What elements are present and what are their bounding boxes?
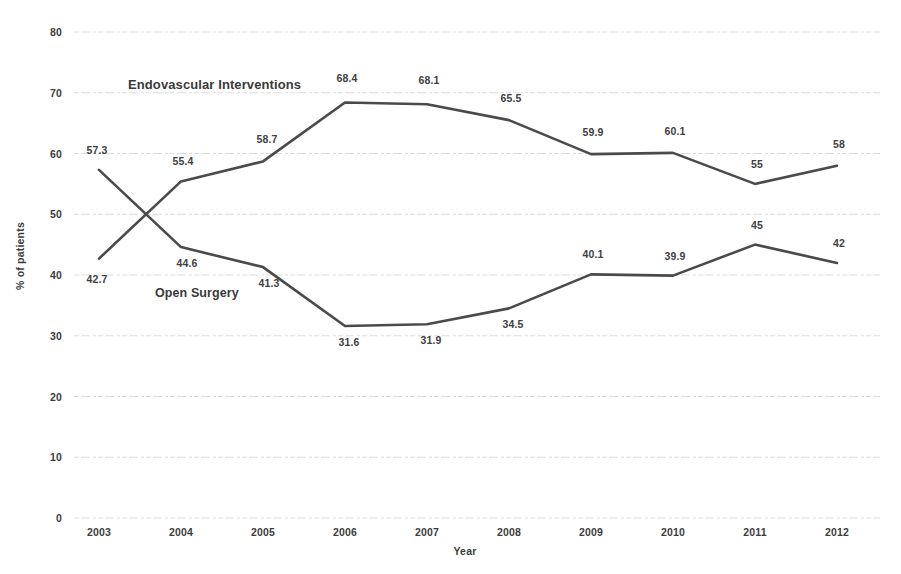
x-axis-tick-label: 2012 [802, 527, 872, 538]
gridlines [74, 32, 880, 518]
data-label-endovascular-interventions-2006: 68.4 [325, 73, 369, 84]
y-axis-tick-label: 60 [16, 149, 62, 160]
data-label-endovascular-interventions-2003: 42.7 [75, 274, 119, 285]
series-label-endovascular-interventions: Endovascular Interventions [128, 78, 301, 91]
data-label-open-surgery-2004: 44.6 [165, 258, 209, 269]
data-label-open-surgery-2008: 34.5 [491, 319, 535, 330]
data-label-endovascular-interventions-2007: 68.1 [407, 75, 451, 86]
data-label-open-surgery-2012: 42 [817, 238, 861, 249]
y-axis-tick-label: 70 [16, 88, 62, 99]
data-label-open-surgery-2006: 31.6 [327, 337, 371, 348]
x-axis-tick-label: 2006 [310, 527, 380, 538]
x-axis-tick-label: 2007 [392, 527, 462, 538]
data-label-open-surgery-2005: 41.3 [247, 278, 291, 289]
series-line-open-surgery [99, 170, 837, 326]
y-axis-tick-label: 10 [16, 452, 62, 463]
x-axis-tick-label: 2005 [228, 527, 298, 538]
x-axis-tick-label: 2009 [556, 527, 626, 538]
x-axis-tick-label: 2010 [638, 527, 708, 538]
data-label-endovascular-interventions-2008: 65.5 [489, 93, 533, 104]
x-axis-tick-label: 2003 [64, 527, 134, 538]
data-label-open-surgery-2011: 45 [735, 220, 779, 231]
x-axis-title: Year [420, 545, 510, 557]
data-label-endovascular-interventions-2012: 58 [817, 139, 861, 150]
data-label-endovascular-interventions-2009: 59.9 [571, 127, 615, 138]
y-axis-tick-label: 30 [16, 331, 62, 342]
y-axis-tick-label: 80 [16, 27, 62, 38]
data-label-open-surgery-2010: 39.9 [653, 251, 697, 262]
data-label-endovascular-interventions-2011: 55 [735, 159, 779, 170]
y-axis-tick-label: 0 [16, 513, 62, 524]
y-axis-title: % of patients [14, 201, 26, 311]
series-label-open-surgery: Open Surgery [155, 287, 239, 300]
y-axis-tick-label: 20 [16, 392, 62, 403]
line-chart: 80706050403020100 2003200420052006200720… [0, 0, 901, 574]
x-axis-tick-label: 2004 [146, 527, 216, 538]
data-label-endovascular-interventions-2010: 60.1 [653, 126, 697, 137]
data-label-open-surgery-2009: 40.1 [571, 249, 615, 260]
x-axis-tick-label: 2011 [720, 527, 790, 538]
data-label-open-surgery-2007: 31.9 [409, 335, 453, 346]
series-line-endovascular-interventions [99, 103, 837, 259]
data-label-open-surgery-2003: 57.3 [75, 145, 119, 156]
data-label-endovascular-interventions-2004: 55.4 [161, 156, 205, 167]
data-label-endovascular-interventions-2005: 58.7 [245, 134, 289, 145]
x-axis-tick-label: 2008 [474, 527, 544, 538]
